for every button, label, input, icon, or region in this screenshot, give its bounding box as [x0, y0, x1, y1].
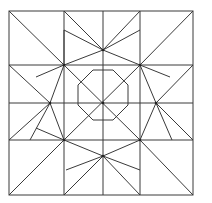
vertex-dot — [139, 64, 142, 67]
pattern-line — [64, 156, 103, 195]
pattern-line — [9, 140, 64, 195]
diagram-canvas — [0, 0, 212, 203]
pattern-line — [64, 140, 103, 156]
pattern-line — [140, 140, 193, 195]
pattern-line — [103, 11, 140, 50]
vertex-dot — [102, 155, 105, 158]
vertex-dot — [139, 139, 142, 142]
pattern-line — [156, 65, 193, 103]
pattern-line — [9, 11, 64, 65]
vertex-dot — [63, 139, 66, 142]
pattern-line — [156, 103, 172, 140]
pattern-line — [30, 103, 50, 140]
pattern-line — [64, 30, 103, 50]
vertex-dot — [102, 102, 105, 105]
pattern-line — [64, 11, 103, 50]
pattern-line — [140, 11, 193, 65]
pattern-line — [50, 65, 64, 103]
star-pattern-diagram — [0, 0, 212, 203]
pattern-line — [140, 103, 156, 140]
pattern-line — [66, 156, 103, 170]
vertex-dot — [102, 49, 105, 52]
pattern-line — [9, 65, 50, 103]
vertex-dot — [49, 102, 52, 105]
pattern-line — [103, 30, 140, 50]
vertex-dot — [155, 102, 158, 105]
pattern-line — [103, 50, 140, 65]
vertex-dot — [63, 64, 66, 67]
pattern-line — [103, 156, 140, 195]
pattern-line — [103, 140, 140, 156]
pattern-line — [9, 103, 50, 140]
pattern-line — [103, 156, 140, 170]
pattern-line — [64, 50, 103, 65]
pattern-line — [156, 103, 193, 140]
